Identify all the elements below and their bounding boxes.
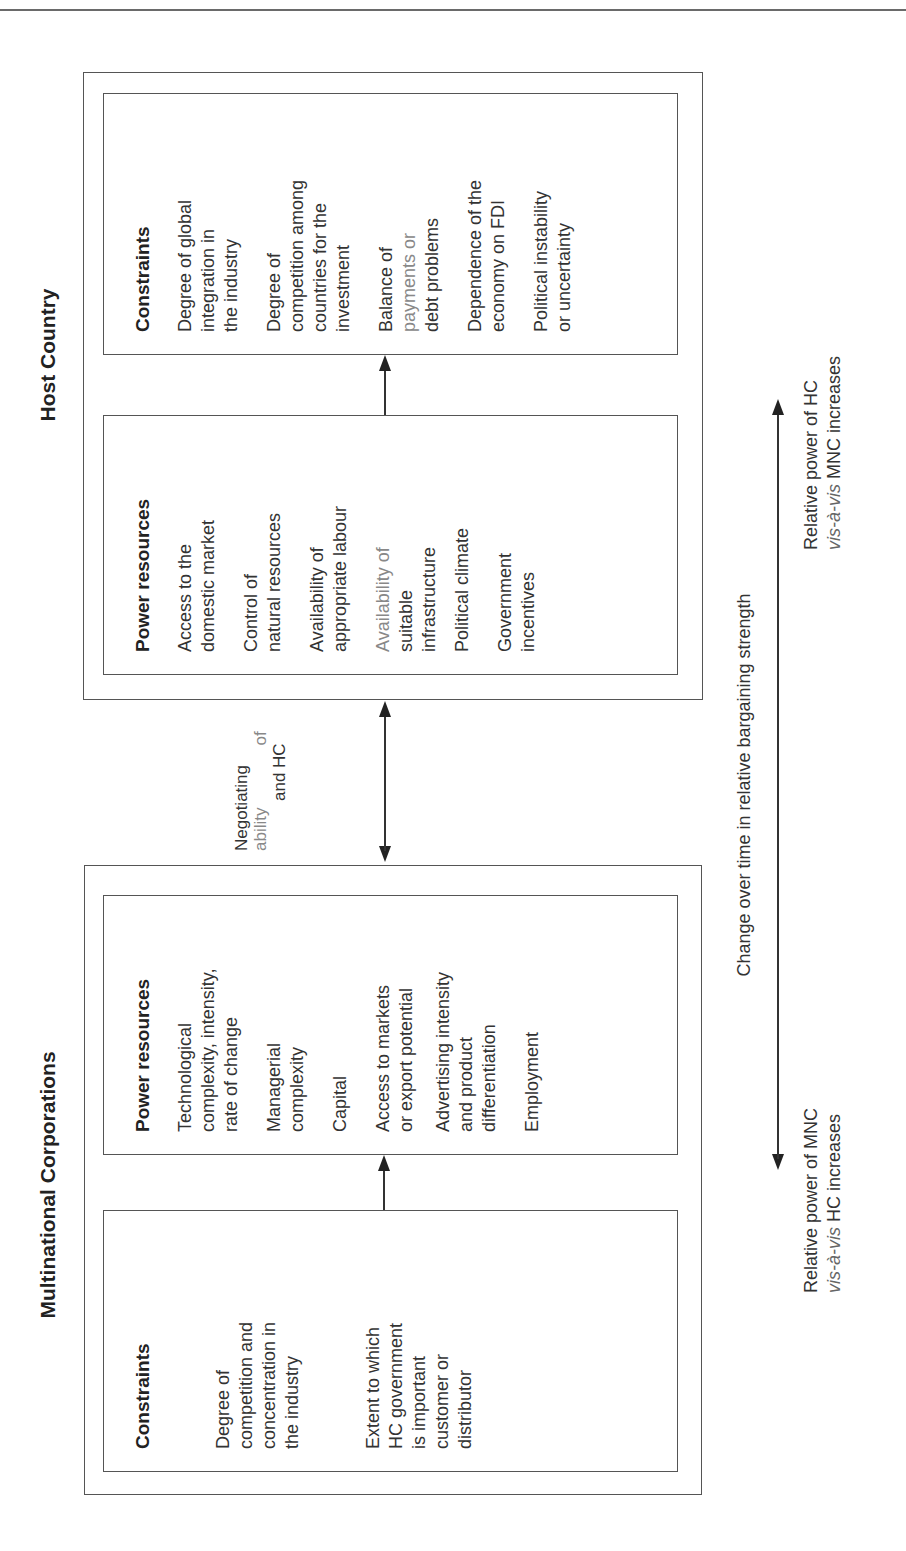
- bargaining-strength-axis: [777, 411, 779, 1159]
- host-power-heading: Power resources: [132, 416, 154, 652]
- host-power-resources-box: Power resources Access to the domestic m…: [103, 415, 678, 675]
- mnc-power-item: Capital: [329, 896, 352, 1132]
- mnc-title: Multinational Corporations: [36, 1051, 60, 1318]
- arrowhead-icon: [379, 355, 391, 371]
- arrowhead-icon: [378, 1155, 390, 1171]
- host-constraint-item: Dependence of the economy on FDI: [464, 94, 510, 332]
- host-constraint-item: Balance of payments or debt problems: [375, 94, 444, 332]
- host-power-item: Availability of appropriate labour: [306, 416, 352, 652]
- host-power-item: Access to the domestic market: [174, 416, 220, 652]
- bargaining-axis-label: Change over time in relative bargaining …: [733, 593, 756, 976]
- host-power-item: Availability of suitable infrastructure: [372, 416, 441, 652]
- host-constraints-heading: Constraints: [132, 94, 154, 332]
- mnc-power-heading: Power resources: [132, 896, 154, 1132]
- arrowhead-icon: [379, 701, 391, 717]
- mnc-constraints-box: Constraints Degree of competition and co…: [103, 1210, 678, 1472]
- negotiation-double-arrow: [384, 711, 386, 851]
- mnc-constraints-to-power-arrow: [383, 1168, 385, 1210]
- host-constraint-item: Political instability or uncertainty: [530, 94, 576, 332]
- mnc-constraint-item: Degree of competition and concentration …: [212, 1211, 304, 1449]
- host-constraint-item: Degree of competition among countries fo…: [263, 94, 355, 332]
- mnc-power-item: Access to markets or export potential: [372, 896, 418, 1132]
- mnc-power-increases-label: Relative power of MNC vis-à-vis HC incre…: [800, 1108, 846, 1293]
- host-power-to-constraints-arrow: [384, 369, 386, 415]
- host-power-item: Control of natural resources: [240, 416, 286, 652]
- arrowhead-icon: [772, 399, 784, 415]
- mnc-power-item: Managerial complexity: [263, 896, 309, 1132]
- negotiating-ability-label: Negotiating abilityof and HC: [232, 701, 289, 851]
- mnc-constraint-item: Extent to which HC government is importa…: [362, 1211, 477, 1449]
- mnc-power-item: Employment: [521, 896, 544, 1132]
- mnc-power-item: Technological complexity, intensity, rat…: [174, 896, 243, 1132]
- mnc-power-resources-box: Power resources Technological complexity…: [103, 895, 678, 1155]
- hc-power-increases-label: Relative power of HC vis-à-vis MNC incre…: [800, 356, 846, 550]
- host-country-title: Host Country: [36, 289, 60, 422]
- host-constraints-box: Constraints Degree of global integration…: [103, 93, 678, 355]
- host-constraint-item: Degree of global integration in the indu…: [174, 94, 243, 332]
- diagram-canvas: Host Country Multinational Corporations …: [0, 0, 906, 1551]
- mnc-constraints-heading: Constraints: [132, 1211, 154, 1449]
- mnc-power-item: Advertising intensity and product differ…: [432, 896, 501, 1132]
- host-power-item: Government incentives: [494, 416, 540, 652]
- host-power-item: Political climate: [451, 416, 474, 652]
